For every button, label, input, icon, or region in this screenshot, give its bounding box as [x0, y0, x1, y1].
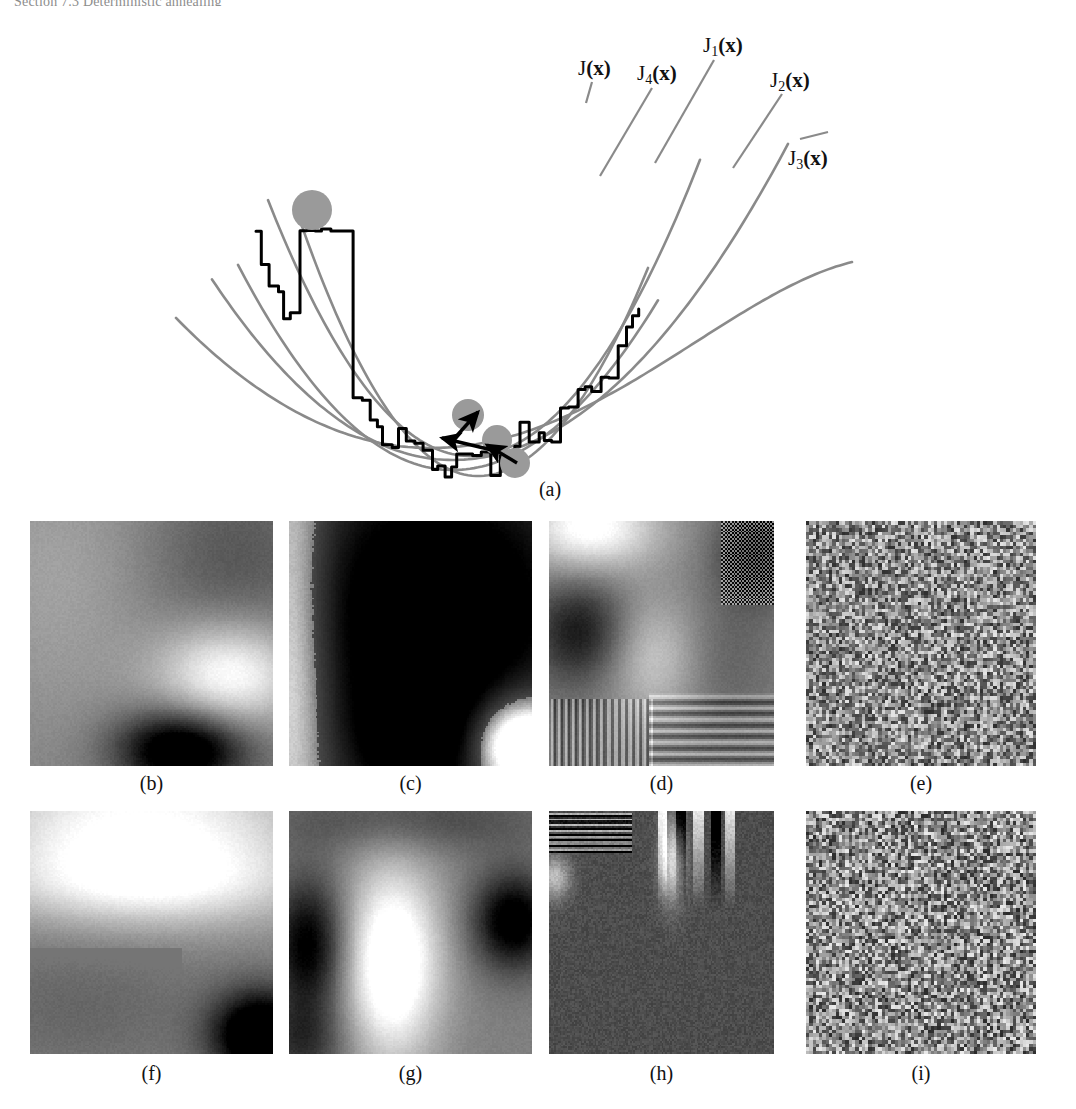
caption-i: (i)	[861, 1062, 981, 1085]
image-panel-d	[549, 521, 774, 766]
image-panel-i	[806, 811, 1036, 1054]
caption-d: (d)	[602, 772, 722, 795]
curve-label-argument: (x)	[803, 146, 828, 170]
running-head: Section 7.3 Deterministic annealing	[14, 0, 574, 6]
curve-label-j4: J4(x)	[637, 63, 677, 87]
caption-e: (e)	[861, 772, 981, 795]
leader-line-j3	[800, 132, 828, 139]
image-canvas-h	[549, 811, 774, 1054]
energy-landscape-svg	[0, 8, 1076, 508]
curve-label-argument: (x)	[718, 33, 743, 57]
ball-start	[292, 190, 332, 230]
curve-label-j2: J2(x)	[770, 70, 810, 94]
curve-label-j: J(x)	[578, 58, 611, 79]
curve-label-argument: (x)	[785, 68, 810, 92]
smoothed-curve-group	[176, 144, 852, 476]
image-canvas-e	[806, 521, 1036, 766]
image-canvas-c	[289, 521, 532, 766]
leader-line-j4	[600, 88, 652, 176]
curve-label-base: J	[578, 56, 586, 80]
curve-label-base: J	[770, 68, 778, 92]
caption-h: (h)	[602, 1062, 722, 1085]
caption-c: (c)	[351, 772, 471, 795]
figure-root: Section 7.3 Deterministic annealing J(x)…	[0, 0, 1076, 1109]
image-panel-c	[289, 521, 532, 766]
curve-label-base: J	[637, 61, 645, 85]
leader-line-j2	[733, 94, 782, 168]
image-panel-g	[289, 811, 532, 1054]
caption-g: (g)	[351, 1062, 471, 1085]
image-canvas-g	[289, 811, 532, 1054]
image-panel-f	[30, 811, 273, 1054]
curve-label-argument: (x)	[652, 61, 677, 85]
curve-label-base: J	[703, 33, 711, 57]
image-panel-b	[30, 521, 273, 766]
image-canvas-i	[806, 811, 1036, 1054]
panel-a-landscape	[0, 8, 1076, 508]
caption-b: (b)	[92, 772, 212, 795]
caption-f: (f)	[92, 1062, 212, 1085]
curve-label-argument: (x)	[586, 56, 611, 80]
image-panel-h	[549, 811, 774, 1054]
ball-mid-1	[452, 399, 484, 431]
curve-label-j3: J3(x)	[788, 148, 828, 172]
image-panel-e	[806, 521, 1036, 766]
curve-label-base: J	[788, 146, 796, 170]
image-canvas-f	[30, 811, 273, 1054]
caption-a: (a)	[490, 478, 610, 501]
image-canvas-d	[549, 521, 774, 766]
curve-label-j1: J1(x)	[703, 35, 743, 59]
leader-line-j	[586, 82, 592, 103]
image-canvas-b	[30, 521, 273, 766]
